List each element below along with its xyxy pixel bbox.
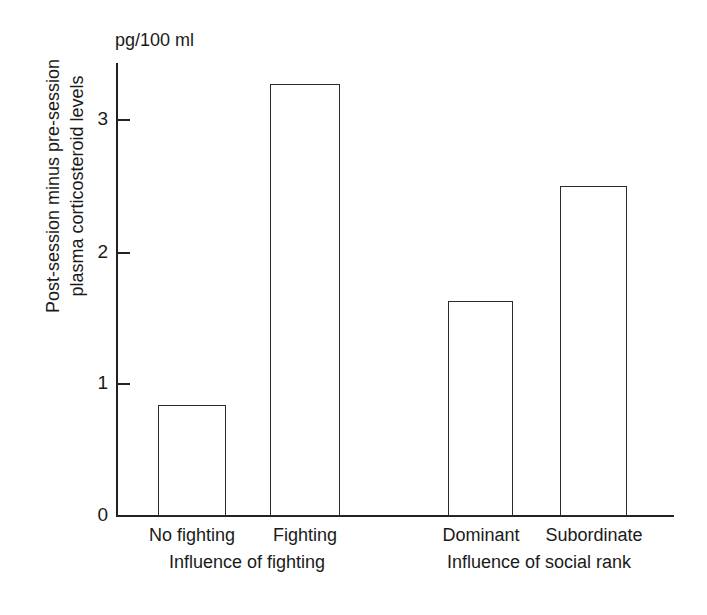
category-label-subordinate: Subordinate [533, 524, 655, 546]
y-axis-unit-label: pg/100 ml [115, 30, 194, 50]
y-tick-label-wrap: 3 [78, 109, 108, 129]
y-tick-label: 0 [80, 505, 108, 524]
y-axis-title-line-1: Post-session minus pre-session [41, 59, 65, 313]
y-tick-label-wrap: 0 [78, 505, 108, 525]
y-tick-mark [118, 119, 130, 121]
bar-subordinate [560, 186, 627, 516]
category-label-dominant: Dominant [421, 524, 541, 546]
bar-no-fighting [158, 405, 226, 516]
bar-fighting [270, 84, 340, 516]
y-tick-label: 2 [80, 242, 108, 261]
category-label-fighting: Fighting [248, 524, 362, 546]
y-tick-mark [118, 252, 130, 254]
group-label-social-rank: Influence of social rank [425, 551, 653, 573]
y-tick-label-wrap: 1 [78, 373, 108, 393]
category-label-no-fighting: No fighting [130, 524, 254, 546]
y-tick-label: 1 [80, 373, 108, 392]
y-axis-title: Post-session minus pre-session plasma co… [39, 0, 91, 381]
group-label-fighting: Influence of fighting [136, 551, 358, 573]
y-axis-line [116, 63, 118, 517]
y-tick-mark [118, 383, 130, 385]
bar-chart-figure: pg/100 ml Post-session minus pre-session… [0, 0, 707, 615]
bar-dominant [448, 301, 513, 516]
y-tick-label-wrap: 2 [78, 242, 108, 262]
y-tick-label: 3 [80, 109, 108, 128]
